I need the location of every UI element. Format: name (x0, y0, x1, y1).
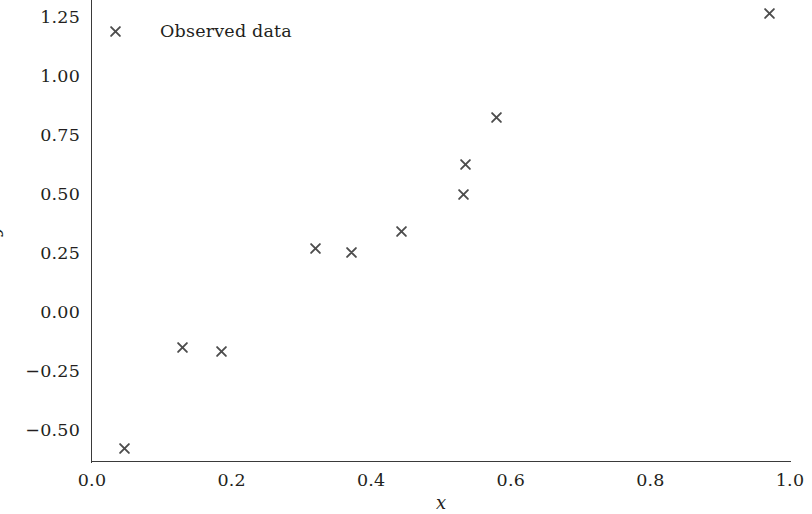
x-tick-label: 0.4 (357, 470, 385, 490)
y-tick-label: −0.25 (0, 361, 80, 381)
x-tick-label: 0.8 (636, 470, 664, 490)
y-tick-label: 0.00 (0, 302, 80, 322)
plot-data-area (92, 0, 790, 462)
legend-label: Observed data (160, 21, 292, 41)
y-axis-tick-labels: 1.251.000.750.500.250.00−0.25−0.50 (0, 0, 80, 462)
x-tick-label: 1.0 (776, 470, 804, 490)
x-tick-label: 0.0 (78, 470, 106, 490)
legend: Observed data (108, 18, 292, 44)
y-tick-label: 0.75 (0, 125, 80, 145)
y-tick-label: 0.25 (0, 243, 80, 263)
x-axis-label: x (0, 492, 812, 513)
y-tick-label: −0.50 (0, 420, 80, 440)
y-tick-label: 1.25 (0, 7, 80, 27)
y-axis-label: y (0, 226, 3, 236)
y-tick-label: 1.00 (0, 66, 80, 86)
x-tick-label: 0.6 (497, 470, 525, 490)
legend-marker-x-icon (108, 24, 123, 39)
x-tick-label: 0.2 (217, 470, 245, 490)
scatter-plot-figure: 1.251.000.750.500.250.00−0.25−0.50 0.00.… (0, 0, 812, 514)
y-tick-label: 0.50 (0, 184, 80, 204)
